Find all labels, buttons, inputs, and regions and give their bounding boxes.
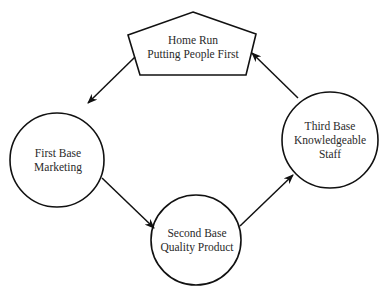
first-base-label: First Base Marketing	[34, 146, 82, 174]
home-run-title: Home Run	[147, 33, 238, 47]
third-base-label: Third Base Knowledgeable Staff	[294, 119, 366, 161]
second-base-label: Second Base Quality Product	[160, 226, 233, 254]
third-base-subtitle-2: Staff	[294, 147, 366, 161]
first-base-title: First Base	[34, 146, 82, 160]
third-base-subtitle-1: Knowledgeable	[294, 133, 366, 147]
home-run-label: Home Run Putting People First	[147, 33, 238, 61]
home-run-subtitle: Putting People First	[147, 47, 238, 61]
arrow-home-to-first	[88, 57, 135, 103]
third-base-title: Third Base	[294, 119, 366, 133]
arrow-third-to-home	[252, 53, 298, 98]
second-base-title: Second Base	[160, 226, 233, 240]
arrow-second-to-third	[240, 175, 293, 226]
first-base-subtitle: Marketing	[34, 160, 82, 174]
arrow-first-to-second	[102, 178, 154, 228]
second-base-subtitle: Quality Product	[160, 240, 233, 254]
